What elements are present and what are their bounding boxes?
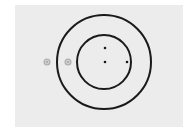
dot-right <box>126 61 129 64</box>
dot-top <box>104 47 107 50</box>
marker-left-icon <box>44 59 51 66</box>
concentric-circles-diagram <box>0 0 191 135</box>
dot-center <box>104 61 107 64</box>
marker-right-icon <box>65 59 72 66</box>
